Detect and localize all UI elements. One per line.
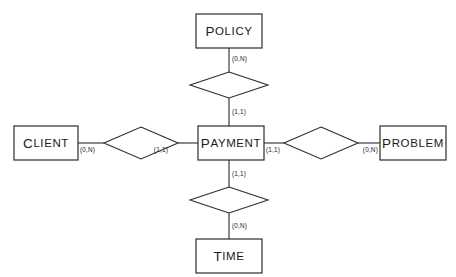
er-diagram-canvas: POLICY CLIENT PAYMENT PROBLEM TIME (0,N)… xyxy=(0,0,456,277)
relationship-diamond-policy-payment[interactable] xyxy=(190,72,268,98)
entity-label-payment: PAYMENT xyxy=(201,136,261,151)
cardinality-payment-top: (1,1) xyxy=(232,108,246,116)
cardinality-time-side: (0,N) xyxy=(232,222,247,230)
entity-label-client: CLIENT xyxy=(23,136,69,151)
entity-label-time: TIME xyxy=(213,249,244,264)
cardinality-client-side: (0,N) xyxy=(80,146,95,154)
relationship-diamond-payment-problem[interactable] xyxy=(284,127,358,159)
entity-label-policy: POLICY xyxy=(205,24,252,39)
cardinality-payment-bottom: (1,1) xyxy=(232,170,246,178)
cardinality-payment-left: (1,1) xyxy=(154,146,168,154)
cardinality-problem-side: (0,N) xyxy=(363,146,378,154)
er-diagram-svg: POLICY CLIENT PAYMENT PROBLEM TIME (0,N)… xyxy=(0,0,456,277)
relationship-diamond-payment-time[interactable] xyxy=(190,187,268,213)
entity-label-problem: PROBLEM xyxy=(382,136,444,151)
cardinality-policy-side: (0,N) xyxy=(232,55,247,63)
cardinality-payment-right: (1,1) xyxy=(266,146,280,154)
relationship-diamond-client-payment[interactable] xyxy=(104,127,178,159)
